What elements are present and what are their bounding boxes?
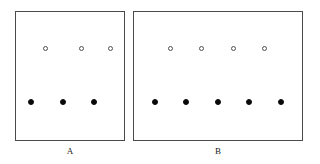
open-circle-marker (168, 46, 173, 51)
open-circle-marker (199, 46, 204, 51)
open-circle-marker (231, 46, 236, 51)
open-circle-marker (108, 46, 113, 51)
filled-circle-marker (278, 99, 284, 105)
open-circle-marker (43, 46, 48, 51)
panel-b (133, 11, 303, 141)
filled-circle-marker (152, 99, 158, 105)
filled-circle-marker (215, 99, 221, 105)
filled-circle-marker (28, 99, 34, 105)
panel-b-label: B (215, 146, 221, 156)
filled-circle-marker (91, 99, 97, 105)
panel-a-label: A (67, 146, 74, 156)
open-circle-marker (262, 46, 267, 51)
panel-a (15, 11, 125, 141)
panel-b-plot-area (134, 12, 302, 140)
panel-a-plot-area (16, 12, 124, 140)
open-circle-marker (79, 46, 84, 51)
filled-circle-marker (246, 99, 252, 105)
filled-circle-marker (183, 99, 189, 105)
figure-canvas: A B (0, 0, 320, 164)
filled-circle-marker (60, 99, 66, 105)
